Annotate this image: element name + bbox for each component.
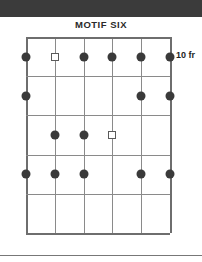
string-line-1 [26, 37, 28, 233]
string-line-5 [141, 37, 142, 233]
fret-marker-dot-r3-s2[interactable] [50, 131, 59, 140]
fret-marker-dot-r1-s5[interactable] [137, 52, 146, 61]
fret-line-1 [26, 37, 170, 39]
fret-marker-dot-r1-s1[interactable] [22, 52, 31, 61]
fret-marker-dot-r4-s3[interactable] [79, 170, 88, 179]
fret-line-3 [26, 115, 170, 116]
string-line-6 [170, 37, 172, 233]
fret-marker-dot-r2-s6[interactable] [166, 91, 175, 100]
fret-line-2 [26, 76, 170, 77]
fret-line-5 [26, 194, 170, 195]
fret-marker-dot-r1-s4[interactable] [108, 52, 117, 61]
fret-marker-dot-r4-s5[interactable] [137, 170, 146, 179]
fret-position-label: 10 fr [176, 50, 195, 60]
fret-line-4 [26, 155, 170, 156]
fret-marker-dot-r2-s5[interactable] [137, 91, 146, 100]
fret-line-6 [26, 233, 170, 235]
fret-marker-dot-r2-s1[interactable] [22, 91, 31, 100]
fret-marker-dot-r4-s2[interactable] [50, 170, 59, 179]
bottom-divider [0, 255, 202, 256]
fret-marker-dot-r1-s6[interactable] [166, 52, 175, 61]
fret-marker-square-r1-s2[interactable] [51, 53, 59, 61]
fret-marker-dot-r3-s3[interactable] [79, 131, 88, 140]
fret-marker-dot-r4-s1[interactable] [22, 170, 31, 179]
fretboard-diagram [26, 37, 170, 233]
fret-marker-dot-r1-s3[interactable] [79, 52, 88, 61]
page-title: MOTIF SIX [0, 19, 202, 30]
fret-marker-dot-r4-s6[interactable] [166, 170, 175, 179]
fret-marker-square-r3-s4[interactable] [108, 131, 116, 139]
top-banner [0, 0, 202, 17]
